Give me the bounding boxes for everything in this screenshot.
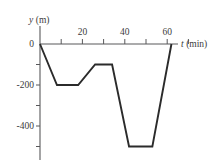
x-axis-label: t(min)	[181, 39, 207, 50]
y-tick-label-0: 0	[29, 39, 34, 49]
data-curve	[40, 44, 171, 147]
x-axis-label-symbol: t	[181, 39, 184, 49]
y-tick-label-minus200: -200	[17, 80, 35, 90]
figure-container: 20 40 60 0 -200 -400 y(m) t(min)	[0, 0, 220, 166]
y-tick-label-minus400: -400	[17, 121, 35, 131]
displacement-time-plot: 20 40 60 0 -200 -400 y(m) t(min)	[0, 0, 220, 166]
y-axis-label-unit: (m)	[36, 15, 50, 26]
y-axis-ticks	[36, 65, 40, 147]
x-tick-label-20: 20	[78, 27, 88, 37]
y-axis-label: y(m)	[28, 15, 49, 26]
y-axis-label-symbol: y	[28, 15, 34, 25]
x-tick-label-40: 40	[120, 27, 130, 37]
x-axis-ticks	[61, 39, 188, 44]
x-axis-label-unit: (min)	[186, 39, 207, 50]
x-tick-label-60: 60	[162, 27, 172, 37]
